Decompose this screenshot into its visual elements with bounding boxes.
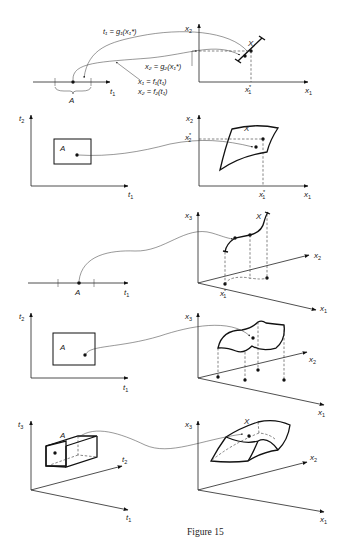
set-x-label: X <box>255 212 262 221</box>
panel-2: t2 t1 A x2 x1 X x*2 x*1 <box>19 114 311 200</box>
x2-label: x2 <box>309 453 317 463</box>
x2-label: x2 <box>313 251 321 261</box>
t1-label: t1 <box>126 513 131 523</box>
set-a-brace <box>55 87 91 94</box>
t1-label: t1 <box>123 383 128 393</box>
x1-label: x1 <box>304 86 312 96</box>
panel-3: A t1 x3 x2 x1 X x*1 <box>28 211 327 314</box>
x2-label: x2 <box>308 355 316 365</box>
map-arrow <box>79 431 243 449</box>
t3-label: t3 <box>18 420 23 430</box>
set-a-label: A <box>59 144 65 153</box>
equation-t1-g1: t₁ = g₁(x₁*) <box>103 27 137 36</box>
x1-label: x1 <box>319 304 327 314</box>
equation-x2-g2: x₂ = g₂(x₁*) <box>144 62 182 71</box>
panel-5: t3 t2 t1 A x3 x2 x1 X <box>18 417 327 525</box>
map-arrow <box>79 232 233 281</box>
x2-axis <box>198 352 307 378</box>
x1-star-label: x*1 <box>258 189 266 200</box>
set-a-label: A <box>59 343 65 352</box>
curve-x <box>225 212 268 252</box>
t1-label: t1 <box>124 288 129 298</box>
t2-axis <box>31 466 122 490</box>
figure-15: A t1 x2 x1 X x*1 t₁ = g₁(x₁*) x₂ = g₂(x₁… <box>0 0 349 558</box>
x3-label: x3 <box>184 420 192 430</box>
x3-label: x3 <box>184 211 192 221</box>
x2-label: x2 <box>185 114 193 124</box>
x1-star-label: x*1 <box>219 288 227 299</box>
x1-label: x1 <box>319 515 327 525</box>
map-arrow <box>86 325 250 354</box>
point-a <box>71 80 74 83</box>
t1-label: t1 <box>128 190 133 200</box>
x1-axis <box>198 378 324 405</box>
x2-axis <box>198 462 307 490</box>
point-a <box>77 281 81 285</box>
equation-x1-f1: x₁ = f₁(t₁) <box>137 77 167 86</box>
set-a-box <box>46 436 97 467</box>
figure-caption: Figure 15 <box>187 527 224 537</box>
set-a-label: A <box>59 431 65 440</box>
x3-label: x3 <box>184 312 192 322</box>
solid-x <box>211 421 290 462</box>
t1-axis <box>31 490 128 510</box>
x1-label: x1 <box>303 190 311 200</box>
set-x-label: X <box>243 124 250 133</box>
set-a-label: A <box>68 96 74 105</box>
panel-1: A t1 x2 x1 X x*1 t₁ = g₁(x₁*) x₂ = g₂(x₁… <box>33 24 312 105</box>
x1-star-label: x*1 <box>244 84 252 95</box>
t2-label: t2 <box>19 312 24 322</box>
inverse-map-arrow <box>84 32 248 78</box>
equation-x2-f2: x₂ = f₂(t₁) <box>137 87 168 96</box>
panel-4: t2 t1 A x3 x2 x1 <box>19 312 325 418</box>
t2-label: t2 <box>122 455 127 465</box>
t2-label: t2 <box>19 114 24 124</box>
x1-axis <box>198 490 324 512</box>
set-a-label: A <box>74 288 80 297</box>
surface-x <box>218 321 284 352</box>
set-x-label: X <box>243 417 250 426</box>
t1-label: t1 <box>110 87 115 97</box>
set-x-label: X <box>247 39 254 48</box>
x1-label: x1 <box>317 408 325 418</box>
x1-axis <box>198 283 316 310</box>
